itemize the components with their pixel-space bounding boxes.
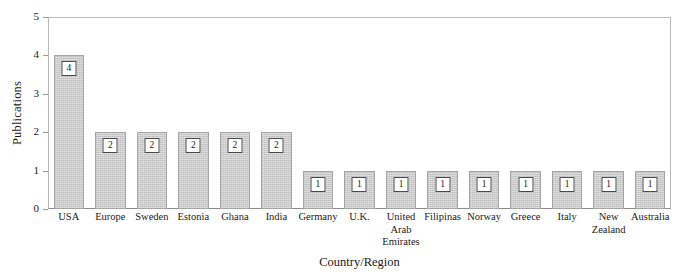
x-tick-label-line: Australia [629, 211, 671, 224]
y-axis-tick: 0 [0, 209, 48, 210]
bar[interactable]: 2 [178, 132, 209, 209]
bar-slot: 1 [427, 17, 458, 209]
x-axis-title: Country/Region [48, 254, 671, 270]
bars-layer: 422222111111111 [48, 17, 671, 209]
x-tick-label-line: Greece [505, 211, 547, 224]
x-tick-label: Greece [505, 211, 547, 224]
bar-slot: 1 [469, 17, 500, 209]
bar[interactable]: 1 [469, 171, 500, 209]
x-tick-label-line: Filipinas [422, 211, 464, 224]
x-tick-label: U.K. [339, 211, 381, 224]
bar[interactable]: 2 [220, 132, 251, 209]
x-tick-label: Estonia [173, 211, 215, 224]
bar-chart: Publications 012345 422222111111111 USAE… [0, 0, 679, 278]
x-tick-label: Filipinas [422, 211, 464, 224]
bar[interactable]: 1 [386, 171, 417, 209]
bar-value-label: 1 [310, 177, 325, 192]
bar-slot: 1 [552, 17, 583, 209]
bar-value-label: 1 [394, 177, 409, 192]
bar[interactable]: 1 [427, 171, 458, 209]
bar[interactable]: 1 [303, 171, 334, 209]
bar-slot: 1 [510, 17, 541, 209]
bar[interactable]: 1 [344, 171, 375, 209]
x-tick-label-line: U.K. [339, 211, 381, 224]
x-tick-label: UnitedArabEmirates [380, 211, 422, 249]
bar-slot: 1 [635, 17, 666, 209]
x-tick-label: Norway [463, 211, 505, 224]
x-tick-label: Germany [297, 211, 339, 224]
x-tick-label-line: Zealand [588, 224, 630, 237]
bar-value-label: 1 [477, 177, 492, 192]
y-axis-tick: 3 [0, 94, 48, 95]
bar-slot: 2 [95, 17, 126, 209]
x-tick-label-line: Emirates [380, 236, 422, 249]
bar-value-label: 2 [103, 138, 118, 153]
x-tick-label-line: Ghana [214, 211, 256, 224]
bar-slot: 1 [386, 17, 417, 209]
bar-slot: 2 [220, 17, 251, 209]
bar[interactable]: 2 [261, 132, 292, 209]
bar-value-label: 2 [227, 138, 242, 153]
x-tick-label: Australia [629, 211, 671, 224]
bar-value-label: 1 [518, 177, 533, 192]
y-tick-label: 2 [34, 124, 40, 139]
x-tick-label-line: Estonia [173, 211, 215, 224]
bar-slot: 1 [344, 17, 375, 209]
y-tick-label: 1 [34, 163, 40, 178]
y-tick-label: 3 [34, 86, 40, 101]
x-tick-label-line: India [256, 211, 298, 224]
x-axis-tick-labels: USAEuropeSwedenEstoniaGhanaIndiaGermanyU… [48, 211, 671, 257]
x-tick-label: NewZealand [588, 211, 630, 236]
bar-value-label: 4 [61, 61, 76, 76]
bar-value-label: 2 [186, 138, 201, 153]
y-tick-label: 4 [34, 47, 40, 62]
bar[interactable]: 2 [95, 132, 126, 209]
bar-value-label: 1 [352, 177, 367, 192]
x-tick-label-line: Arab [380, 224, 422, 237]
bar-slot: 4 [54, 17, 85, 209]
bar-value-label: 2 [269, 138, 284, 153]
bar[interactable]: 4 [54, 55, 85, 209]
x-tick-label: Ghana [214, 211, 256, 224]
x-tick-label: India [256, 211, 298, 224]
y-tick-mark [43, 209, 48, 210]
x-tick-label-line: United [380, 211, 422, 224]
y-axis-tick: 1 [0, 171, 48, 172]
x-tick-label: Europe [90, 211, 132, 224]
bar-value-label: 1 [435, 177, 450, 192]
bar-value-label: 2 [144, 138, 159, 153]
x-tick-label-line: Europe [90, 211, 132, 224]
x-tick-label: Sweden [131, 211, 173, 224]
bar[interactable]: 1 [552, 171, 583, 209]
bar[interactable]: 1 [593, 171, 624, 209]
y-axis-tick: 4 [0, 55, 48, 56]
x-tick-label: Italy [546, 211, 588, 224]
y-axis-tick: 2 [0, 132, 48, 133]
y-axis-title: Publications [8, 8, 26, 218]
bar-slot: 1 [593, 17, 624, 209]
bar[interactable]: 1 [635, 171, 666, 209]
bar-value-label: 1 [601, 177, 616, 192]
bar[interactable]: 1 [510, 171, 541, 209]
x-tick-label-line: New [588, 211, 630, 224]
bar-slot: 1 [303, 17, 334, 209]
y-tick-label: 0 [34, 201, 40, 216]
x-tick-label-line: Italy [546, 211, 588, 224]
bar-slot: 2 [178, 17, 209, 209]
x-tick-label-line: USA [48, 211, 90, 224]
x-tick-label-line: Germany [297, 211, 339, 224]
y-tick-label: 5 [34, 9, 40, 24]
x-tick-label: USA [48, 211, 90, 224]
x-tick-label-line: Sweden [131, 211, 173, 224]
bar-slot: 2 [261, 17, 292, 209]
bar-value-label: 1 [643, 177, 658, 192]
bar[interactable]: 2 [137, 132, 168, 209]
bar-value-label: 1 [560, 177, 575, 192]
y-axis-tick: 5 [0, 17, 48, 18]
x-tick-label-line: Norway [463, 211, 505, 224]
bar-slot: 2 [137, 17, 168, 209]
